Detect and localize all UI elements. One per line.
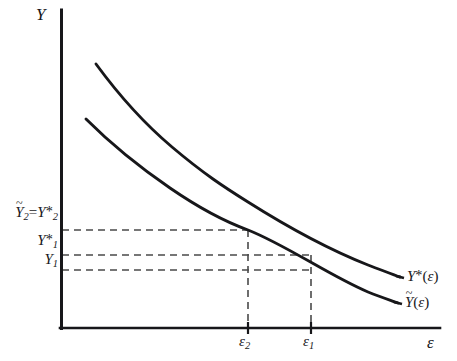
curve-y-tilde xyxy=(86,119,398,303)
subscript-2: 2 xyxy=(24,211,29,222)
subscript-1: 1 xyxy=(309,340,314,351)
leader-y-star xyxy=(396,276,404,278)
subscript-1: 1 xyxy=(53,239,58,250)
equals-glyph: = xyxy=(29,204,37,220)
guide-lines xyxy=(62,230,311,327)
economics-figure: Y ε ~Y2=Y*2 Y*1 Y1 ε2 ε1 Y*(ε) ~Y(ε) xyxy=(0,0,457,361)
paren-close: ) xyxy=(424,294,429,310)
y-glyph: Y xyxy=(37,232,45,248)
subscript-1: 1 xyxy=(53,258,58,269)
curve-label-leaders xyxy=(394,276,404,304)
subscript-2: 2 xyxy=(245,340,250,351)
axes xyxy=(60,10,440,329)
x-tick-label-epsilon1: ε1 xyxy=(303,334,314,349)
curves xyxy=(86,64,400,303)
paren-close: ) xyxy=(433,268,438,284)
x-tick-label-epsilon2: ε2 xyxy=(239,334,250,349)
y-glyph: Y xyxy=(44,251,52,267)
curve-label-y-star: Y*(ε) xyxy=(407,269,438,284)
y-value-label-ystar1: Y*1 xyxy=(2,233,58,248)
y-axis-title: Y xyxy=(36,6,45,23)
y-value-label-y2-equals-ystar2: ~Y2=Y*2 xyxy=(2,205,58,220)
star-glyph: * xyxy=(46,231,53,247)
star-glyph: * xyxy=(415,267,422,283)
chart-canvas xyxy=(0,0,457,361)
curve-label-y-tilde: ~Y(ε) xyxy=(405,295,429,310)
x-axis-title: ε xyxy=(427,334,434,351)
subscript-2b: 2 xyxy=(53,211,58,222)
leader-y-tilde xyxy=(394,302,402,304)
y-tilde-glyph: ~Y xyxy=(405,295,413,310)
y-value-label-y1: Y1 xyxy=(2,252,58,267)
star-glyph: * xyxy=(46,203,53,219)
y-tilde-glyph: ~Y xyxy=(15,205,23,220)
y-glyph: Y xyxy=(37,204,45,220)
